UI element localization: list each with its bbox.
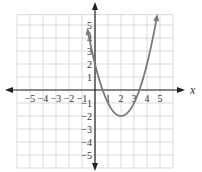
y-tick-label: −5 — [81, 150, 92, 161]
x-tick-label: −3 — [51, 93, 62, 104]
parabola-graph: x −5−4−3−2−11234554321−1−2−3−4−5 — [0, 0, 202, 172]
x-tick-label: −2 — [64, 93, 75, 104]
y-tick-label: −2 — [81, 111, 92, 122]
x-tick-label: 2 — [119, 93, 124, 104]
y-axis-bottom-arrow-icon — [92, 163, 98, 171]
y-tick-label: −1 — [81, 98, 92, 109]
y-axis-top-arrow-icon — [92, 2, 98, 10]
x-tick-label: −5 — [25, 93, 36, 104]
x-axis-right-arrow-icon — [177, 87, 185, 93]
y-tick-label: 2 — [87, 59, 92, 70]
y-tick-label: 1 — [87, 72, 92, 83]
curve-right-arrow-icon — [153, 14, 159, 21]
x-axis-left-arrow-icon — [5, 87, 13, 93]
x-axis-label: x — [189, 83, 196, 97]
x-tick-label: 4 — [145, 93, 150, 104]
y-tick-label: −3 — [81, 124, 92, 135]
x-tick-label: −4 — [38, 93, 49, 104]
x-tick-label: 5 — [158, 93, 163, 104]
y-tick-label: −4 — [81, 137, 92, 148]
